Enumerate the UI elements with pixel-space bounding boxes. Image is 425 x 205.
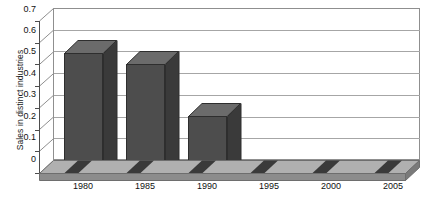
x-tick-label: 1995	[247, 182, 291, 191]
gridline	[53, 30, 420, 31]
x-tick-label: 2005	[371, 182, 415, 191]
y-tick-mark	[35, 64, 40, 65]
x-tick-label: 1985	[123, 182, 167, 191]
bar-chart: Sales in distinct industries 0.7 0.6 0.5…	[0, 0, 425, 205]
bar-side-face	[165, 51, 179, 177]
y-tick-mark	[35, 21, 40, 22]
y-tick-label: 0.2	[6, 112, 36, 121]
y-tick-label: 0.7	[6, 5, 36, 14]
y-axis-tick-labels: 0.7 0.6 0.5 0.4 0.3 0.2 0.1 0	[4, 0, 36, 205]
bar-top-face	[126, 51, 165, 64]
y-tick-label: 0.5	[6, 47, 36, 56]
y-tick-label: 0.3	[6, 90, 36, 99]
x-axis-tick-labels: 1980 1985 1990 1995 2000 2005	[0, 182, 425, 196]
y-tick-label: 0	[6, 155, 36, 164]
y-tick-mark	[35, 108, 40, 109]
plot-area	[39, 8, 420, 173]
y-tick-mark	[35, 43, 40, 44]
bar-top-face	[64, 40, 103, 53]
x-tick-label: 2000	[309, 182, 353, 191]
y-tick-mark	[35, 130, 40, 131]
bar-top-face	[188, 103, 227, 116]
y-tick-label: 0.1	[6, 133, 36, 142]
y-tick-mark	[35, 151, 40, 152]
bar-1980[interactable]	[64, 40, 103, 177]
bar-1985[interactable]	[126, 51, 165, 177]
chart-floor	[39, 160, 420, 182]
bar-front-face	[64, 53, 103, 177]
plot-side-wall	[39, 8, 54, 174]
y-tick-label: 0.6	[6, 26, 36, 35]
y-axis-line	[39, 21, 40, 173]
y-tick-label: 0.4	[6, 69, 36, 78]
x-tick-label: 1990	[185, 182, 229, 191]
y-tick-mark	[35, 86, 40, 87]
bar-side-face	[103, 40, 117, 177]
x-tick-label: 1980	[61, 182, 105, 191]
